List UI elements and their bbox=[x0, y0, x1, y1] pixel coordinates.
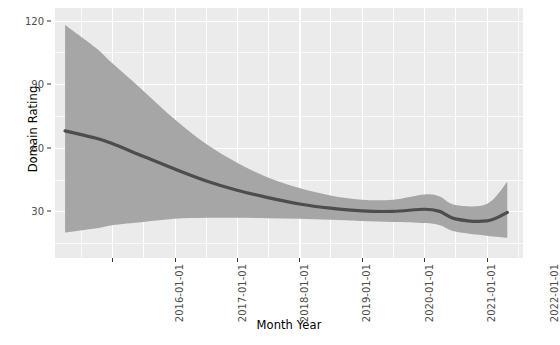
x-tick-mark bbox=[175, 258, 176, 262]
x-axis-title: Month Year bbox=[55, 318, 523, 332]
x-tick-label: 2016-01-01 bbox=[174, 264, 185, 322]
x-tick-mark bbox=[424, 258, 425, 262]
x-tick-label: 2019-01-01 bbox=[362, 264, 373, 322]
x-tick-label: 2021-01-01 bbox=[486, 264, 497, 322]
x-tick-label: 2020-01-01 bbox=[424, 264, 435, 322]
x-tick-mark bbox=[237, 258, 238, 262]
x-tick-label: 2022-01-01 bbox=[549, 264, 560, 322]
x-tick-label: 2018-01-01 bbox=[299, 264, 310, 322]
x-tick-label: 2017-01-01 bbox=[237, 264, 248, 322]
x-tick-mark bbox=[362, 258, 363, 262]
x-tick-mark bbox=[112, 258, 113, 262]
x-tick-mark bbox=[299, 258, 300, 262]
x-tick-mark bbox=[487, 258, 488, 262]
